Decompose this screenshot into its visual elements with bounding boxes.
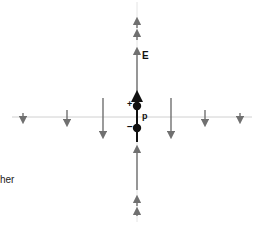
positive-charge-dot-icon <box>133 102 141 110</box>
field-label-E: E <box>142 50 149 61</box>
dipole-field-diagram <box>0 0 256 225</box>
negative-charge-label: − <box>127 121 133 132</box>
dipole <box>133 96 141 142</box>
positive-charge-label: + <box>127 99 132 109</box>
partial-caption-text: her <box>0 174 14 185</box>
axes <box>12 2 252 222</box>
dipole-moment-label-p: p <box>142 111 148 121</box>
negative-charge-dot-icon <box>133 124 141 132</box>
